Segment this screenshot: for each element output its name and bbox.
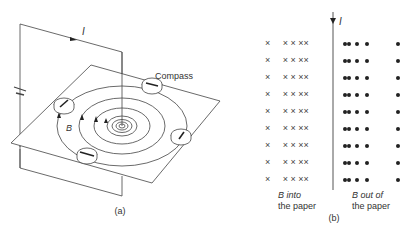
cross-row: × × × ×× <box>265 157 309 167</box>
label-b-out: B out of the paper <box>352 190 390 212</box>
compass-bottom <box>77 148 97 164</box>
current-label-a: I <box>82 26 85 37</box>
current-label-b: I <box>339 16 342 27</box>
panel-a-diagram <box>0 0 225 232</box>
battery-plate-short <box>16 93 24 95</box>
cross-row: × × × ×× <box>265 89 309 99</box>
compass-left <box>54 98 74 114</box>
current-arrow-icon-b <box>330 18 336 24</box>
label-b-into: B into the paper <box>278 190 316 212</box>
cross-row: × × × ×× <box>265 72 309 82</box>
horizontal-plane <box>11 65 220 183</box>
cross-row: × × × ×× <box>265 140 309 150</box>
cross-row: × × × ×× <box>265 38 309 48</box>
compass-label: Compass <box>155 71 193 82</box>
label-b-into-line2: the paper <box>278 201 316 211</box>
cross-row: × × × ×× <box>265 106 309 116</box>
label-b-into-line1: B into <box>278 190 301 200</box>
label-b-out-line2: the paper <box>352 201 390 211</box>
caption-b: (b) <box>322 213 346 223</box>
caption-a: (a) <box>108 206 132 216</box>
compass-right <box>171 129 191 145</box>
label-b-out-line1: B out of <box>352 190 383 200</box>
field-label-b: B <box>66 123 72 134</box>
cross-row: × × × ×× <box>265 55 309 65</box>
cross-row: × × × ×× <box>265 123 309 133</box>
cross-row: × × × ×× <box>265 174 309 184</box>
